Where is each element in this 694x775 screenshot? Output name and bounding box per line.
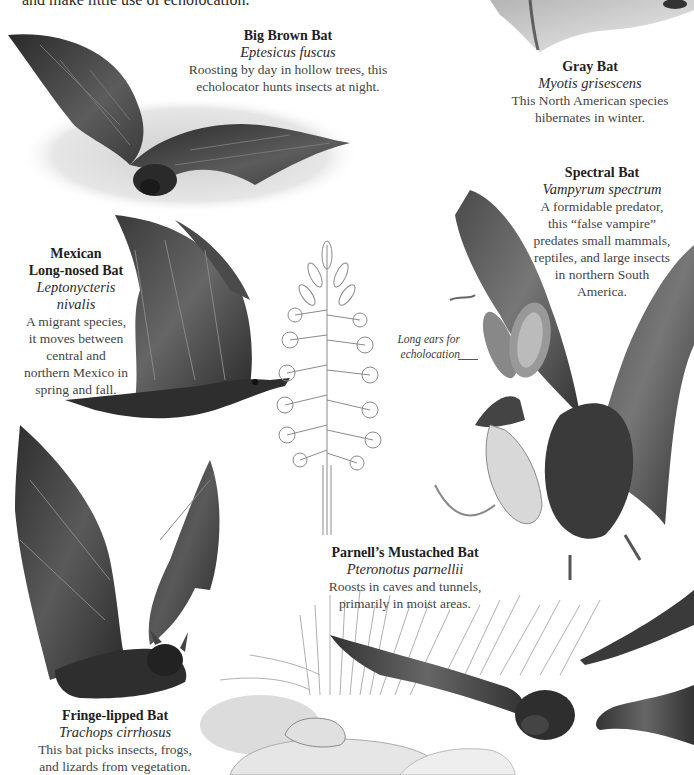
fringe-lipped-bat-caption: Fringe-lipped Bat Trachops cirrhosus Thi… <box>6 707 224 775</box>
scientific-name: Eptesicus fuscus <box>172 44 404 61</box>
scientific-name: nivalis <box>14 296 138 313</box>
agave-flower-illustration <box>265 235 385 535</box>
gray-bat-cave-illustration <box>490 0 694 55</box>
common-name: Big Brown Bat <box>172 27 404 44</box>
description-line: it moves between <box>14 330 138 347</box>
description-line: spring and fall. <box>14 381 138 398</box>
description-line: central and <box>14 347 138 364</box>
description-line: A formidable predator, <box>512 198 692 215</box>
scientific-name: Myotis grisescens <box>490 75 690 92</box>
description-line: hibernates in winter. <box>490 109 690 126</box>
parnells-mustached-bat-caption: Parnell’s Mustached Bat Pteronotus parne… <box>290 544 520 612</box>
common-name: Fringe-lipped Bat <box>6 707 224 724</box>
description-line: predates small mammals, <box>512 232 692 249</box>
common-name: Long-nosed Bat <box>14 262 138 279</box>
scientific-name: Leptonycteris <box>14 279 138 296</box>
common-name: Gray Bat <box>490 58 690 75</box>
description-line: primarily in moist areas. <box>290 595 520 612</box>
common-name: Parnell’s Mustached Bat <box>290 544 520 561</box>
description-line: America. <box>512 283 692 300</box>
annotation-line: Long ears for <box>390 332 460 347</box>
description-line: reptiles, and large insects <box>512 249 692 266</box>
gray-bat-caption: Gray Bat Myotis grisescens This North Am… <box>490 58 690 126</box>
description-line: Roosting by day in hollow trees, this <box>172 61 404 78</box>
scientific-name: Trachops cirrhosus <box>6 724 224 741</box>
annotation-pointer-line <box>458 359 478 360</box>
description-line: This North American species <box>490 92 690 109</box>
description-line: Roosts in caves and tunnels, <box>290 578 520 595</box>
description-line: in northern South <box>512 266 692 283</box>
mexican-long-nosed-bat-caption: Mexican Long-nosed Bat Leptonycteris niv… <box>14 245 138 398</box>
description-line: and lizards from vegetation. <box>6 758 224 775</box>
big-brown-bat-caption: Big Brown Bat Eptesicus fuscus Roosting … <box>172 27 404 95</box>
scientific-name: Pteronotus parnellii <box>290 561 520 578</box>
spectral-bat-caption: Spectral Bat Vampyrum spectrum A formida… <box>512 164 692 300</box>
common-name: Spectral Bat <box>512 164 692 181</box>
description-line: this “false vampire” <box>512 215 692 232</box>
intro-text: and make little use of echolocation. <box>22 0 249 9</box>
description-line: This bat picks insects, frogs, <box>6 741 224 758</box>
description-line: A migrant species, <box>14 313 138 330</box>
description-line: echolocator hunts insects at night. <box>172 78 404 95</box>
long-ears-annotation: Long ears for echolocation <box>390 332 460 362</box>
annotation-line: echolocation <box>390 347 460 362</box>
scientific-name: Vampyrum spectrum <box>512 181 692 198</box>
common-name: Mexican <box>14 245 138 262</box>
description-line: northern Mexico in <box>14 364 138 381</box>
